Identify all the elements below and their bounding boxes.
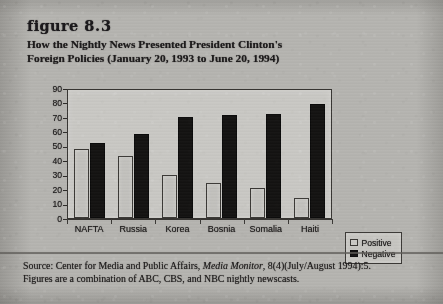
y-axis-tick-label: 90 xyxy=(36,85,62,94)
x-axis-tick-mark xyxy=(67,219,68,224)
y-axis-tick-label: 40 xyxy=(36,157,62,166)
bar-nafta-positive xyxy=(74,149,89,218)
bar-haiti-positive xyxy=(294,198,309,218)
legend-label: Positive xyxy=(362,238,392,248)
y-axis-tick-label: 0 xyxy=(36,215,62,224)
figure-label-number: 8.3 xyxy=(84,17,112,34)
bar-somalia-positive xyxy=(250,188,265,218)
x-axis-tick-mark xyxy=(111,219,112,224)
bar-group xyxy=(243,90,287,218)
figure-number-heading: figure 8.3 xyxy=(27,17,112,34)
x-axis-tick-mark xyxy=(332,219,333,224)
y-axis-tick-label: 10 xyxy=(36,200,62,209)
bar-chart: 9080706050403020100 NAFTARussiaKoreaBosn… xyxy=(0,82,443,249)
footer-divider xyxy=(0,252,443,254)
source-note: Source: Center for Media and Public Affa… xyxy=(23,259,435,286)
y-axis-tick-label: 20 xyxy=(36,186,62,195)
bar-group xyxy=(112,90,156,218)
figure-label-word: figure xyxy=(27,17,79,34)
light-square-swatch xyxy=(350,239,358,247)
source-note-line-2: Figures are a combination of ABC, CBS, a… xyxy=(23,272,435,285)
figure-title-line-1: How the Nightly News Presented President… xyxy=(27,37,357,51)
x-axis-label-korea: Korea xyxy=(155,224,199,234)
figure-title-line-2: Foreign Policies (January 20, 1993 to Ju… xyxy=(27,51,357,65)
scanned-figure-page: figure 8.3 How the Nightly News Presente… xyxy=(0,0,443,304)
bar-group xyxy=(287,90,331,218)
bar-bosnia-negative xyxy=(222,115,237,218)
y-axis-tick-label: 80 xyxy=(36,99,62,108)
bar-group xyxy=(156,90,200,218)
source-note-line-1: Source: Center for Media and Public Affa… xyxy=(23,259,435,272)
bar-group xyxy=(68,90,112,218)
x-axis-tick-mark xyxy=(288,219,289,224)
y-axis-tick-label: 70 xyxy=(36,114,62,123)
bar-nafta-negative xyxy=(90,143,105,218)
bar-somalia-negative xyxy=(266,114,281,218)
x-axis-label-somalia: Somalia xyxy=(244,224,288,234)
black-square-swatch xyxy=(350,250,358,258)
y-axis-tick-labels: 9080706050403020100 xyxy=(36,82,62,249)
x-axis-label-bosnia: Bosnia xyxy=(200,224,244,234)
legend-label: Negative xyxy=(362,249,396,259)
x-axis-label-russia: Russia xyxy=(111,224,155,234)
bar-haiti-negative xyxy=(310,104,325,218)
bar-bosnia-positive xyxy=(206,183,221,218)
bar-groups xyxy=(68,90,331,218)
x-axis-tick-mark xyxy=(200,219,201,224)
x-axis-tick-mark xyxy=(155,219,156,224)
x-axis-category-labels: NAFTARussiaKoreaBosniaSomaliaHaiti xyxy=(67,224,332,234)
bar-russia-positive xyxy=(118,156,133,218)
plot-area xyxy=(67,89,332,219)
source-note-citation: , 8(4)(July/August 1994):5. xyxy=(263,260,371,271)
bar-korea-positive xyxy=(162,175,177,218)
y-axis-tick-label: 30 xyxy=(36,171,62,180)
source-note-prefix: Source: Center for Media and Public Affa… xyxy=(23,260,203,271)
legend-entry-negative: Negative xyxy=(350,248,395,259)
bar-group xyxy=(199,90,243,218)
figure-title: How the Nightly News Presented President… xyxy=(27,37,357,65)
x-axis-label-nafta: NAFTA xyxy=(67,224,111,234)
bar-korea-negative xyxy=(178,117,193,218)
source-publication-title: Media Monitor xyxy=(203,260,263,271)
x-axis-tick-mark xyxy=(244,219,245,224)
y-axis-tick-label: 60 xyxy=(36,128,62,137)
x-axis-label-haiti: Haiti xyxy=(288,224,332,234)
y-axis-tick-label: 50 xyxy=(36,142,62,151)
legend-entry-positive: Positive xyxy=(350,237,395,248)
bar-russia-negative xyxy=(134,134,149,218)
